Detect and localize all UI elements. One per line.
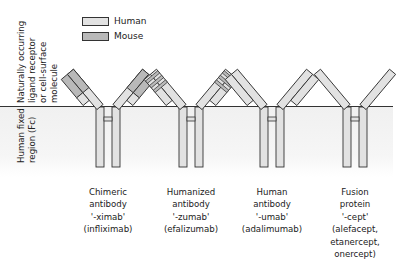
chimeric-antibody-shape	[61, 69, 155, 167]
humanized-antibody-shape	[144, 69, 238, 167]
caption-chimeric: Chimeric antibody '-ximab' (infliximab)	[63, 186, 153, 236]
caption-fusion: Fusion protein '-cept' (alefacept, etane…	[310, 186, 400, 260]
human-antibody-shape	[225, 69, 319, 167]
caption-humanized: Humanized antibody '-zumab' (efalizumab)	[146, 186, 236, 236]
fusion-protein-shape	[314, 69, 395, 167]
caption-human: Human antibody '-umab' (adalimumab)	[227, 186, 317, 236]
